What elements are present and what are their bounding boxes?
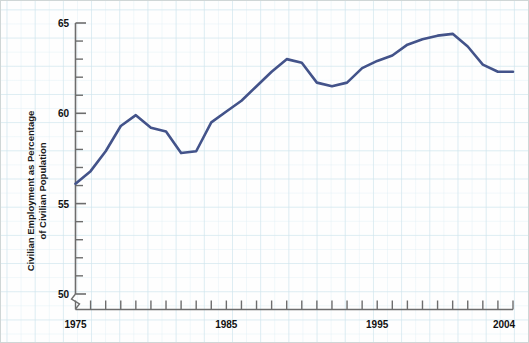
x-tick-label-1985: 1985 [215, 319, 238, 330]
x-axis-tick-labels: 1975 1985 1995 2004 [64, 319, 515, 330]
employment-ratio-line [76, 34, 514, 184]
y-axis-minor-ticks [76, 41, 84, 276]
y-axis-tick-labels: 65 60 55 50 [58, 18, 70, 300]
chart-page: Civilian Employment as Percentage of Civ… [0, 0, 529, 343]
x-tick-label-2004: 2004 [493, 319, 516, 330]
x-tick-label-1995: 1995 [366, 319, 389, 330]
y-axis-major-ticks [76, 23, 87, 294]
y-tick-label-60: 60 [58, 108, 70, 119]
employment-ratio-line-chart: Civilian Employment as Percentage of Civ… [1, 1, 529, 343]
y-axis-label-line1: Civilian Employment as Percentage [25, 111, 36, 272]
y-tick-label-50: 50 [58, 289, 70, 300]
x-axis-ticks [76, 301, 514, 310]
y-tick-label-65: 65 [58, 18, 70, 29]
y-axis-label: Civilian Employment as Percentage of Civ… [25, 111, 48, 272]
y-tick-label-55: 55 [58, 199, 70, 210]
x-tick-label-1975: 1975 [64, 319, 87, 330]
y-axis-label-line2: of Civilian Population [37, 142, 48, 239]
